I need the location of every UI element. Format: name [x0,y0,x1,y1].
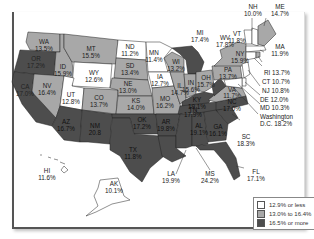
label-vt: VT11.8% [228,30,246,44]
label-nh: NH10.0% [244,3,262,17]
legend-item-mid: 13.0% to 16.4% [257,209,312,218]
state-de [242,78,246,86]
legend-swatch-high [257,219,265,227]
label-sc: SC18.3% [237,133,255,147]
legend-label-low: 12.9% or less [269,202,305,208]
legend-label-mid: 13.0% to 16.4% [269,211,311,217]
legend-item-high: 16.5% or more [257,218,312,227]
label-ri: RI 13.7% [264,69,290,76]
label-ma: MA11.9% [271,43,289,57]
label-nm: NM20.8 [89,122,102,136]
state-fl [196,142,240,180]
legend-item-low: 12.9% or less [257,200,312,209]
map-legend: 12.9% or less 13.0% to 16.4% 16.5% or mo… [253,197,314,230]
state-ma [246,46,266,52]
label-ct: CT 10.7% [262,78,290,85]
legend-label-high: 16.5% or more [269,220,308,226]
label-mi: MI17.4% [191,29,209,43]
label-de: DE 12.0% [260,96,289,103]
label-fl: FL17.1% [247,168,265,182]
label-md: MD 10.3% [260,104,290,111]
state-ak [86,178,130,216]
state-ri [256,52,260,58]
label-dc: WashingtonD.C. 18.2% [260,113,294,127]
label-ms: MS24.2% [201,170,219,184]
label-nj: NJ 10.8% [262,87,290,94]
state-nj [242,62,250,78]
state-nh [252,28,258,46]
legend-swatch-low [257,201,265,209]
label-hi: HI11.6% [38,167,56,181]
legend-swatch-mid [257,210,265,218]
label-me: ME14.7% [271,3,289,17]
label-la: LA19.9% [162,170,180,184]
state-me [258,20,276,46]
